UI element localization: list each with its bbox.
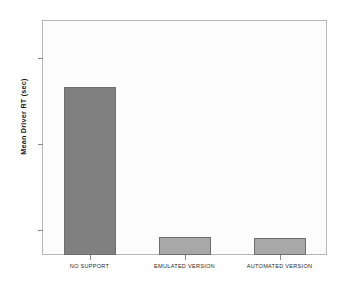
bar-chart-figure: Mean Driver RT (sec) 1.401.301.20 NO SUP… — [0, 0, 344, 283]
bar-emulated-version — [159, 237, 211, 255]
x-axis-tick-mark — [280, 255, 281, 260]
bar-no-support — [64, 87, 116, 255]
bar-automated-version — [254, 238, 306, 255]
bars-layer — [42, 20, 327, 255]
x-axis-tick-label: NO SUPPORT — [70, 263, 109, 269]
x-axis-tick-label: AUTOMATED VERSION — [247, 263, 313, 269]
x-axis-tick-mark — [90, 255, 91, 260]
x-axis-tick-label: EMULATED VERSION — [154, 263, 215, 269]
y-axis-title: Mean Driver RT (sec) — [19, 22, 28, 212]
x-axis-tick-mark — [185, 255, 186, 260]
